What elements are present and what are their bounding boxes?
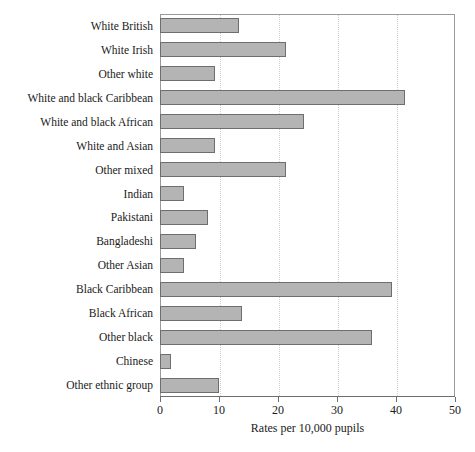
bar xyxy=(160,306,242,321)
category-label: Black Caribbean xyxy=(0,283,153,295)
category-label: White and Asian xyxy=(0,140,153,152)
bar xyxy=(160,330,372,345)
bar xyxy=(160,18,239,33)
bar xyxy=(160,162,286,177)
category-label: Other ethnic group xyxy=(0,379,153,391)
category-label: Indian xyxy=(0,188,153,200)
bar xyxy=(160,114,304,129)
bars-layer xyxy=(160,14,455,397)
category-label: White and black African xyxy=(0,116,153,128)
x-tick-label: 40 xyxy=(376,403,416,417)
bar xyxy=(160,138,215,153)
x-tick-label: 10 xyxy=(199,403,239,417)
x-tick-mark xyxy=(337,397,338,402)
category-axis-labels: White BritishWhite IrishOther whiteWhite… xyxy=(0,14,157,397)
category-label: Other black xyxy=(0,331,153,343)
x-axis-title: Rates per 10,000 pupils xyxy=(160,421,455,435)
x-tick-mark xyxy=(455,397,456,402)
x-tick-label: 20 xyxy=(258,403,298,417)
x-tick-mark xyxy=(219,397,220,402)
bar xyxy=(160,210,208,225)
category-label: Chinese xyxy=(0,355,153,367)
category-label: White and black Caribbean xyxy=(0,92,153,104)
category-label: Black African xyxy=(0,307,153,319)
x-tick-label: 30 xyxy=(317,403,357,417)
category-label: Pakistani xyxy=(0,211,153,223)
bar xyxy=(160,354,171,369)
x-axis-line xyxy=(160,396,455,397)
category-label: Other Asian xyxy=(0,259,153,271)
x-tick-label: 0 xyxy=(140,403,180,417)
x-tick-mark xyxy=(160,397,161,402)
bar xyxy=(160,234,196,249)
bar xyxy=(160,186,184,201)
bar-chart: White BritishWhite IrishOther whiteWhite… xyxy=(0,0,475,452)
category-label: Other mixed xyxy=(0,164,153,176)
x-tick-mark xyxy=(396,397,397,402)
x-tick-label: 50 xyxy=(435,403,475,417)
category-label: Bangladeshi xyxy=(0,235,153,247)
bar xyxy=(160,282,392,297)
bar xyxy=(160,258,184,273)
category-label: White Irish xyxy=(0,44,153,56)
category-label: White British xyxy=(0,20,153,32)
bar xyxy=(160,42,286,57)
bar xyxy=(160,90,405,105)
bar xyxy=(160,378,219,393)
category-label: Other white xyxy=(0,68,153,80)
x-tick-mark xyxy=(278,397,279,402)
bar xyxy=(160,66,215,81)
